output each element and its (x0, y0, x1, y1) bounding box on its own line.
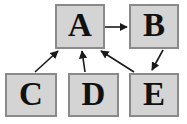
node-a-label: A (68, 9, 92, 44)
edge-line-b-to-e (152, 50, 163, 70)
node-d[interactable]: D (68, 73, 119, 117)
edge-line-e-to-a (101, 51, 134, 72)
edge-d-to-a (82, 51, 85, 72)
node-e-label: E (143, 78, 165, 113)
edge-line-d-to-a (82, 51, 85, 72)
node-a[interactable]: A (55, 4, 105, 49)
edge-line-c-to-a (35, 51, 58, 72)
node-d-label: D (82, 78, 106, 113)
node-e[interactable]: E (129, 73, 179, 117)
edge-b-to-e (152, 50, 163, 70)
edge-c-to-a (35, 51, 58, 72)
node-b-label: B (143, 9, 165, 44)
edge-e-to-a (101, 51, 134, 72)
diagram-canvas: A B C D E (0, 0, 187, 124)
node-b[interactable]: B (129, 4, 179, 49)
node-c[interactable]: C (5, 73, 57, 117)
node-c-label: C (19, 78, 43, 113)
